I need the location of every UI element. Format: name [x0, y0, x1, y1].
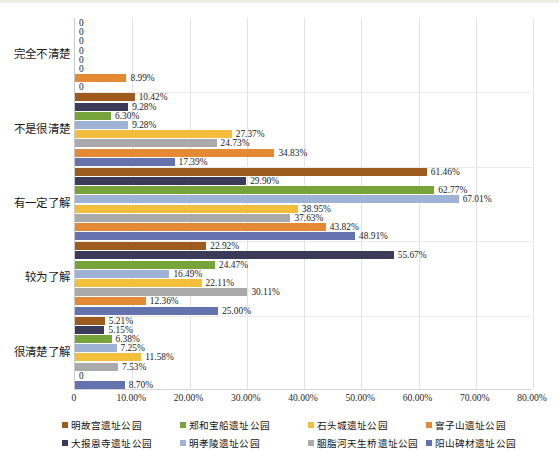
x-axis-tick-labels: 010.00%20.00%30.00%40.00%50.00%60.00%70.… [74, 392, 532, 410]
bar[interactable] [75, 242, 206, 250]
legend-item[interactable]: 阳山碑材遗址公园 [426, 438, 532, 449]
bar-value-label: 8.99% [126, 73, 154, 83]
bar[interactable] [75, 279, 202, 287]
legend-label: 郑和宝船遗址公园 [189, 420, 270, 431]
bar-row: 22.11% [75, 279, 533, 287]
bar[interactable] [75, 344, 117, 352]
bar-row: 25.00% [75, 307, 533, 315]
plot-area: 0000008.99%010.42%9.28%6.30%9.28%27.37%2… [74, 18, 532, 390]
bar-row: 29.90% [75, 177, 533, 185]
gridline [533, 18, 534, 389]
legend-item[interactable]: 明孝陵遗址公园 [180, 438, 308, 449]
bar-value-label: 30.11% [247, 287, 280, 297]
legend-grid: 明故宫遗址公园郑和宝船遗址公园石头城遗址公园窨子山遗址公园大报恩寺遗址公园明孝陵… [62, 416, 532, 452]
bar[interactable] [75, 270, 169, 278]
bar[interactable] [75, 326, 104, 334]
bar-row: 0 [75, 372, 533, 380]
legend-color-swatch [62, 422, 68, 428]
y-axis-category-label: 很清楚了解 [0, 346, 70, 359]
y-axis-category-label: 有一定了解 [0, 197, 70, 210]
bar[interactable] [75, 307, 218, 315]
bar[interactable] [75, 363, 118, 371]
legend-item[interactable]: 郑和宝船遗址公园 [180, 420, 308, 431]
bar[interactable] [75, 261, 215, 269]
bar[interactable] [75, 232, 355, 240]
bar[interactable] [75, 130, 232, 138]
bar[interactable] [75, 205, 298, 213]
bar-value-label: 16.49% [169, 269, 202, 279]
legend-item[interactable]: 明故宫遗址公园 [62, 420, 180, 431]
bar-value-label: 55.67% [394, 250, 427, 260]
bar-row: 6.38% [75, 335, 533, 343]
top-decorative-rule [0, 0, 559, 3]
legend-item[interactable]: 胭脂河天生桥遗址公园 [308, 438, 426, 449]
bar-row: 22.92% [75, 242, 533, 250]
bar-value-label: 48.91% [355, 231, 388, 241]
bar-value-label: 17.39% [175, 157, 208, 167]
x-axis-tick-label: 70.00% [460, 392, 490, 403]
x-axis-tick-label: 10.00% [116, 392, 146, 403]
x-axis-tick-label: 0 [72, 392, 77, 403]
bar-row: 24.47% [75, 261, 533, 269]
bar[interactable] [75, 381, 125, 389]
bar-row: 16.49% [75, 270, 533, 278]
legend-color-swatch [308, 440, 314, 446]
bar-row: 48.91% [75, 232, 533, 240]
legend-color-swatch [180, 422, 186, 428]
bar-row: 30.11% [75, 288, 533, 296]
bar[interactable] [75, 214, 290, 222]
bar[interactable] [75, 177, 246, 185]
bar-row: 27.37% [75, 130, 533, 138]
x-axis-tick-label: 60.00% [403, 392, 433, 403]
bar[interactable] [75, 297, 146, 305]
y-axis-category-label: 较为了解 [0, 271, 70, 284]
legend-item[interactable]: 窨子山遗址公园 [426, 420, 532, 431]
bar[interactable] [75, 353, 141, 361]
bar[interactable] [75, 288, 247, 296]
bar[interactable] [75, 149, 274, 157]
bar-value-label: 34.83% [274, 148, 307, 158]
legend-item[interactable]: 大报恩寺遗址公园 [62, 438, 180, 449]
bar-value-label: 25.00% [218, 306, 251, 316]
bar-value-label: 0 [75, 82, 84, 92]
legend-label: 明孝陵遗址公园 [189, 438, 260, 449]
bar-row: 0 [75, 83, 533, 91]
bar-row: 12.36% [75, 297, 533, 305]
bar-value-label: 9.28% [128, 120, 156, 130]
bar-row: 5.21% [75, 317, 533, 325]
bar-row: 67.01% [75, 195, 533, 203]
bar-row: 24.73% [75, 139, 533, 147]
bar-row: 11.58% [75, 353, 533, 361]
bar[interactable] [75, 121, 128, 129]
bar[interactable] [75, 251, 394, 259]
y-axis-category-label: 不是很清楚 [0, 123, 70, 136]
bar[interactable] [75, 93, 135, 101]
bar-value-label: 24.47% [215, 260, 248, 270]
bar-row: 55.67% [75, 251, 533, 259]
bar[interactable] [75, 223, 326, 231]
bar[interactable] [75, 139, 217, 147]
bar[interactable] [75, 158, 175, 166]
legend-label: 胭脂河天生桥遗址公园 [317, 438, 418, 449]
bar-value-label: 43.82% [326, 222, 359, 232]
bar-row: 8.70% [75, 381, 533, 389]
bar-value-label: 0 [75, 371, 84, 381]
bar-row: 0 [75, 65, 533, 73]
bar[interactable] [75, 168, 427, 176]
bar[interactable] [75, 112, 111, 120]
legend-label: 石头城遗址公园 [317, 420, 388, 431]
y-axis-category-label: 完全不清楚 [0, 48, 70, 61]
legend-item[interactable]: 石头城遗址公园 [308, 420, 426, 431]
bar[interactable] [75, 195, 459, 203]
bar-row: 9.28% [75, 121, 533, 129]
bar-row: 7.53% [75, 363, 533, 371]
bar[interactable] [75, 335, 112, 343]
bar-row: 0 [75, 37, 533, 45]
bar-row: 61.46% [75, 168, 533, 176]
bar-row: 0 [75, 47, 533, 55]
bar[interactable] [75, 103, 128, 111]
bar[interactable] [75, 317, 105, 325]
bar[interactable] [75, 186, 434, 194]
bar[interactable] [75, 74, 126, 82]
bar-value-label: 22.11% [202, 278, 235, 288]
